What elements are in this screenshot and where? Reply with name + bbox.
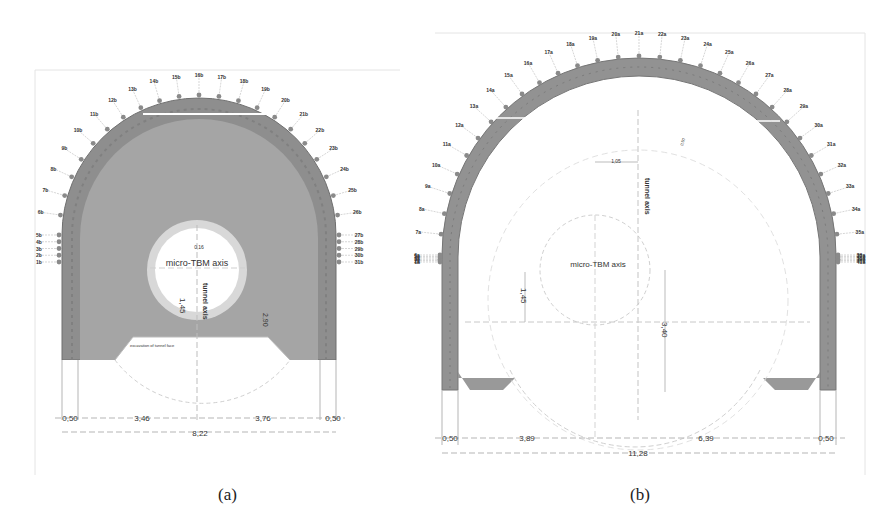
monitoring-point-label: 27a	[765, 72, 774, 78]
monitoring-point-marker	[537, 80, 542, 85]
monitoring-point-marker	[503, 105, 508, 110]
monitoring-point-label: 6a	[414, 252, 420, 258]
monitoring-point-marker	[637, 54, 642, 59]
monitoring-point-label: 32a	[838, 162, 847, 168]
monitoring-point-label: 31a	[827, 141, 836, 147]
monitoring-point-label: 9a	[425, 183, 431, 189]
monitoring-point-marker	[438, 253, 443, 258]
monitoring-point-label: 11a	[443, 141, 451, 147]
monitoring-point-label: 15a	[504, 72, 513, 78]
monitoring-point-label: 30a	[814, 122, 823, 128]
monitoring-point-label: 7a	[415, 229, 421, 235]
monitoring-point-label: 14a	[486, 87, 495, 93]
monitoring-point-marker	[476, 136, 481, 141]
monitoring-point-marker	[442, 211, 447, 216]
monitoring-point-marker	[835, 232, 840, 237]
monitoring-point-label: 24a	[703, 41, 712, 47]
panel-b: 1a2a3a4a5a6a7a8a9a10a11a12a13a14a15a16a1…	[0, 0, 892, 530]
vertical-dim-label-b: 1,45	[519, 288, 528, 304]
monitoring-point-marker	[556, 71, 561, 76]
monitoring-point-marker	[831, 211, 836, 216]
monitoring-point-marker	[520, 92, 525, 97]
monitoring-point-marker	[447, 191, 452, 196]
monitoring-point-marker	[736, 80, 741, 85]
monitoring-point-label: 28a	[783, 87, 792, 93]
monitoring-point-marker	[809, 153, 814, 158]
monitoring-point-marker	[439, 232, 444, 237]
dim-right-half-b: 6,39	[698, 434, 714, 443]
monitoring-point-label: 19a	[589, 35, 598, 41]
monitoring-point-marker	[718, 71, 723, 76]
monitoring-point-marker	[455, 172, 460, 177]
monitoring-point-label: 29a	[800, 103, 809, 109]
monitoring-point-marker	[836, 260, 841, 265]
monitoring-point-label: 35a	[856, 229, 865, 235]
monitoring-point-label: 12a	[455, 122, 464, 128]
monitoring-point-marker	[616, 55, 621, 60]
dim-total-b: 11,28	[628, 449, 648, 458]
monitoring-point-label: 33a	[846, 183, 855, 189]
monitoring-point-label: 26a	[746, 60, 755, 66]
monitoring-point-label: 16a	[524, 60, 533, 66]
monitoring-point-label: 20a	[612, 31, 621, 37]
monitoring-point-label: 21a	[635, 30, 644, 36]
tunnel-cross-section-b: 1a2a3a4a5a6a7a8a9a10a11a12a13a14a15a16a1…	[0, 0, 892, 530]
monitoring-point-marker	[826, 191, 831, 196]
monitoring-point-marker	[595, 58, 600, 63]
monitoring-point-marker	[489, 119, 494, 124]
monitoring-point-marker	[798, 136, 803, 141]
monitoring-point-marker	[678, 58, 683, 63]
caption-b: (b)	[630, 485, 650, 505]
monitoring-point-marker	[784, 119, 789, 124]
dim-left-half-b: 3,89	[519, 434, 535, 443]
monitoring-point-label: 25a	[725, 49, 734, 55]
monitoring-point-marker	[754, 92, 759, 97]
monitoring-point-marker	[770, 105, 775, 110]
micro-tbm-axis-label-b: micro-TBM axis	[570, 260, 626, 269]
monitoring-point-label: 13a	[470, 103, 479, 109]
right-vertical-dim-label-b: 3,40	[660, 322, 669, 338]
dim-left-wall-b: 0,50	[442, 434, 458, 443]
tunnel-axis-label-b: tunnel axis	[644, 178, 651, 215]
monitoring-point-marker	[698, 63, 703, 68]
monitoring-point-label: 8a	[419, 206, 425, 212]
monitoring-point-label: 23a	[681, 35, 690, 41]
monitoring-point-marker	[575, 63, 580, 68]
monitoring-point-label: 17a	[545, 49, 554, 55]
inner-note-b: 0,50	[679, 137, 686, 147]
dim-right-wall-b: 0,50	[818, 434, 834, 443]
monitoring-point-marker	[657, 55, 662, 60]
monitoring-point-label: 41a	[857, 259, 866, 265]
offset-dim-label-b: 1,05	[611, 158, 621, 164]
monitoring-point-label: 34a	[852, 206, 861, 212]
monitoring-point-label: 10a	[432, 162, 441, 168]
monitoring-point-marker	[818, 172, 823, 177]
monitoring-point-label: 18a	[566, 41, 575, 47]
monitoring-point-marker	[464, 153, 469, 158]
monitoring-point-label: 22a	[658, 31, 667, 37]
